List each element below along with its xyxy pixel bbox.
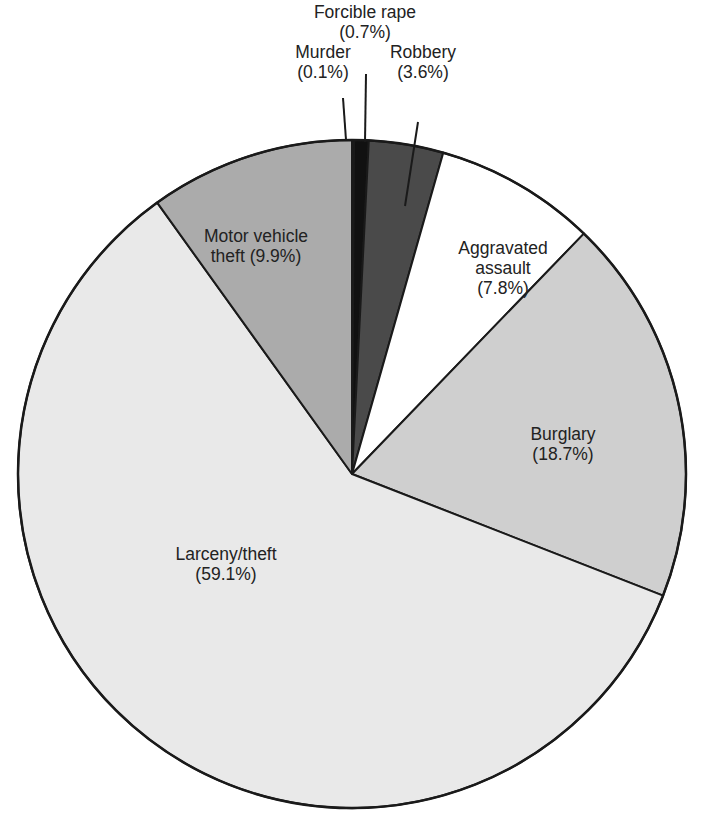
label-text: Robbery	[390, 42, 456, 62]
label-text: Motor vehicle	[204, 226, 308, 246]
label-text: Larceny/theft	[175, 544, 276, 564]
label-text: Aggravated	[458, 238, 548, 258]
label-forcible-rape: Forcible rape (0.7%)	[314, 2, 416, 42]
label-robbery: Robbery (3.6%)	[390, 42, 456, 82]
pie-slices	[18, 140, 686, 808]
label-text: Burglary	[530, 424, 595, 444]
label-value: (7.8%)	[458, 278, 548, 298]
label-value: (0.7%)	[314, 22, 416, 42]
pie-chart	[0, 0, 703, 829]
label-text: Murder	[295, 42, 350, 62]
label-burglary: Burglary (18.7%)	[530, 424, 595, 464]
label-value: (0.1%)	[295, 62, 350, 82]
label-motor-vehicle-theft: Motor vehicle theft (9.9%)	[204, 226, 308, 266]
label-value: (59.1%)	[175, 564, 276, 584]
label-value: (3.6%)	[390, 62, 456, 82]
murder-leader-line	[343, 98, 346, 140]
label-value: (18.7%)	[530, 444, 595, 464]
label-aggravated-assault: Aggravated assault (7.8%)	[458, 238, 548, 298]
rape-leader-line	[365, 74, 366, 142]
label-text: assault	[458, 258, 548, 278]
label-murder: Murder (0.1%)	[295, 42, 350, 82]
label-text: Forcible rape	[314, 2, 416, 22]
label-value: theft (9.9%)	[204, 246, 308, 266]
label-larceny-theft: Larceny/theft (59.1%)	[175, 544, 276, 584]
